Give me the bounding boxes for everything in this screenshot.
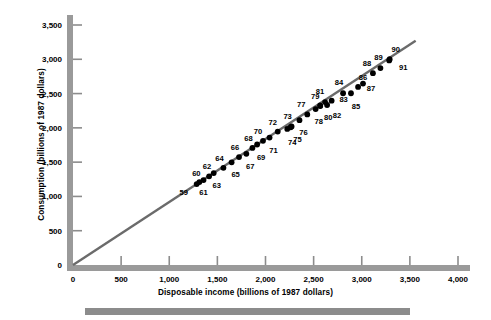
point-label-85: 85 xyxy=(352,102,360,111)
point-label-62: 62 xyxy=(203,162,211,171)
point-label-68: 68 xyxy=(244,133,252,142)
point-label-84: 84 xyxy=(335,78,343,87)
x-tick-label: 4,000 xyxy=(448,275,468,284)
point-label-80: 80 xyxy=(324,113,332,122)
x-tick-label: 2,500 xyxy=(304,275,324,284)
data-point-77 xyxy=(304,112,310,118)
data-point-88 xyxy=(370,70,376,76)
point-label-65: 65 xyxy=(231,170,239,179)
y-tick-label: 1,500 xyxy=(0,158,62,167)
point-label-64: 64 xyxy=(215,153,223,162)
point-label-73: 73 xyxy=(283,112,291,121)
y-tick-label: 0 xyxy=(0,261,62,270)
data-point-87 xyxy=(360,81,366,87)
point-label-89: 89 xyxy=(374,53,382,62)
consumption-function-figure: 05001,0001,5002,0002,5003,0003,50005001,… xyxy=(0,0,491,320)
point-label-81: 81 xyxy=(316,87,324,96)
data-point-91 xyxy=(386,58,392,64)
point-label-71: 71 xyxy=(269,145,277,154)
point-label-78: 78 xyxy=(314,117,322,126)
point-label-61: 61 xyxy=(199,188,207,197)
data-point-85 xyxy=(348,90,354,96)
data-point-66 xyxy=(236,154,242,160)
point-label-60: 60 xyxy=(192,169,200,178)
point-label-83: 83 xyxy=(339,94,347,103)
point-label-72: 72 xyxy=(268,117,276,126)
point-label-69: 69 xyxy=(257,152,265,161)
x-tick-label: 2,000 xyxy=(255,275,275,284)
y-axis-title: Consumption (billions of 1987 dollars) xyxy=(37,30,46,260)
x-tick-label: 0 xyxy=(71,275,75,284)
point-label-90: 90 xyxy=(391,45,399,54)
point-label-87: 87 xyxy=(367,83,375,92)
data-point-68 xyxy=(250,145,256,151)
y-tick-label: 2,500 xyxy=(0,89,62,98)
data-point-83 xyxy=(329,98,335,104)
data-point-61 xyxy=(201,177,207,183)
data-point-72 xyxy=(275,129,281,135)
x-tick-label: 3,500 xyxy=(400,275,420,284)
point-label-59: 59 xyxy=(179,188,187,197)
y-tick-label: 3,000 xyxy=(0,55,62,64)
x-axis-bar xyxy=(67,265,470,271)
point-label-91: 91 xyxy=(399,63,407,72)
point-label-88: 88 xyxy=(363,59,371,68)
data-point-63 xyxy=(211,170,217,176)
x-tick-label: 500 xyxy=(114,275,127,284)
y-tick-label: 1,000 xyxy=(0,192,62,201)
data-point-67 xyxy=(243,151,249,157)
data-point-89 xyxy=(378,65,384,71)
point-label-66: 66 xyxy=(231,143,239,152)
point-label-63: 63 xyxy=(212,181,220,190)
data-point-71 xyxy=(267,135,273,141)
scatter-plot-canvas xyxy=(0,0,491,320)
data-point-69 xyxy=(254,142,260,148)
data-point-65 xyxy=(229,159,235,165)
y-tick-label: 3,500 xyxy=(0,21,62,30)
x-axis-title: Disposable income (billions of 1987 doll… xyxy=(0,288,491,297)
data-point-76 xyxy=(297,117,303,123)
data-point-82 xyxy=(324,102,330,108)
y-tick-label: 2,000 xyxy=(0,123,62,132)
data-point-64 xyxy=(221,165,227,171)
y-axis-bar xyxy=(67,15,73,271)
x-tick-label: 1,000 xyxy=(159,275,179,284)
decorative-bottom-rule xyxy=(85,308,410,315)
x-tick-label: 3,000 xyxy=(352,275,372,284)
x-tick-label: 1,500 xyxy=(207,275,227,284)
point-label-67: 67 xyxy=(246,161,254,170)
data-point-70 xyxy=(260,138,266,144)
data-point-75 xyxy=(289,124,295,130)
point-label-82: 82 xyxy=(333,111,341,120)
axis-layer xyxy=(67,15,470,271)
point-label-86: 86 xyxy=(359,72,367,81)
y-tick-label: 500 xyxy=(0,226,62,235)
point-label-77: 77 xyxy=(297,100,305,109)
point-label-76: 76 xyxy=(299,128,307,137)
point-label-70: 70 xyxy=(254,126,262,135)
data-point-80 xyxy=(317,103,323,109)
data-point-86 xyxy=(355,84,361,90)
